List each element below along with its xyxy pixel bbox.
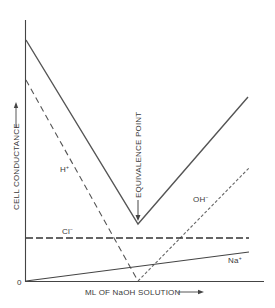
oh-ion-charge: − xyxy=(205,194,208,200)
oh-ion-text: OH xyxy=(193,195,205,204)
equivalence-label: EQUIVALENCE POINT xyxy=(134,112,143,198)
x-arrow-icon xyxy=(198,290,204,294)
h-ion-line xyxy=(26,80,138,281)
na-ion-label: Na+ xyxy=(228,255,242,265)
x-axis-label: ML OF NaOH SOLUTION xyxy=(85,288,181,297)
oh-ion-label: OH− xyxy=(193,194,209,204)
h-ion-label: H+ xyxy=(60,164,69,174)
cl-ion-text: Cl xyxy=(62,227,70,236)
na-ion-line xyxy=(26,252,249,281)
conductance-chart: CELL CONDUCTANCE ML OF NaOH SOLUTION 0 E… xyxy=(0,0,275,308)
y-arrow-icon xyxy=(14,102,18,108)
h-ion-charge: + xyxy=(66,164,69,170)
y-axis-label: CELL CONDUCTANCE xyxy=(12,123,21,210)
na-ion-charge: + xyxy=(239,255,242,261)
cl-ion-charge: − xyxy=(70,226,73,232)
na-ion-text: Na xyxy=(228,256,239,265)
cl-ion-label: Cl− xyxy=(62,226,73,236)
origin-label: 0 xyxy=(17,278,22,287)
